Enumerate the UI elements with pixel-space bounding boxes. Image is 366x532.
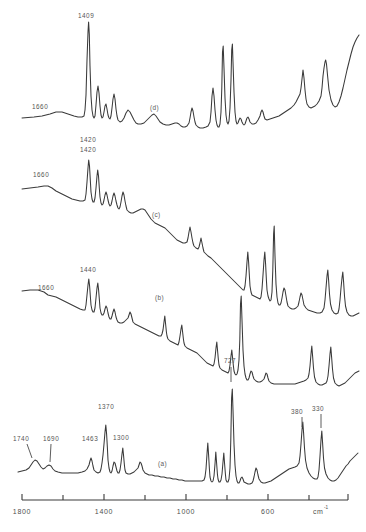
axis-tick-label-1800: 1800	[13, 508, 31, 515]
peak-label-a-380: 380	[291, 408, 303, 415]
peak-label-a-1300: 1300	[113, 434, 129, 441]
x-axis-unit-label: cm -1	[313, 505, 329, 515]
axis-tick-label-1000: 1000	[177, 508, 195, 515]
peak-label-c-1660: 1660	[33, 171, 49, 178]
trace-path-a	[18, 389, 358, 484]
peak-label-d-1660: 1660	[32, 103, 48, 110]
trace-path-b	[22, 279, 359, 386]
trace-path-c	[22, 160, 359, 316]
spectra-figure: 1660 1409 1420 (d) 1660 1420 (c) 1660 14…	[0, 0, 366, 532]
axis-tick-label-1400: 1400	[95, 508, 113, 515]
peak-label-b-1440: 1440	[80, 266, 96, 273]
trace-tag-a: (a)	[158, 460, 167, 468]
trace-tag-c: (c)	[152, 211, 161, 219]
axis-tick-label-600: 600	[261, 508, 275, 515]
trace-tag-d: (d)	[150, 104, 159, 112]
leader-line-1740	[27, 444, 32, 458]
trace-tag-b: (b)	[155, 294, 164, 302]
peak-label-c-1420: 1420	[80, 146, 96, 153]
trace-group-b: 1660 1440 (b)	[22, 266, 359, 386]
peak-label-d-1409: 1409	[78, 12, 94, 19]
trace-group-d: 1660 1409 1420 (d)	[22, 12, 359, 143]
peak-label-a-1690: 1690	[43, 435, 59, 442]
peak-label-b-1660: 1660	[38, 284, 54, 291]
trace-group-a: 1740 1690 1463 1370 1300 727 380 330 (a)	[13, 357, 358, 484]
peak-label-a-1370: 1370	[98, 403, 114, 410]
peak-label-a-330: 330	[312, 405, 324, 412]
leader-line-1690	[50, 444, 51, 462]
peak-label-a-727: 727	[224, 357, 236, 364]
x-axis: 1800 1400 1000 600 cm -1	[13, 494, 348, 515]
peak-label-a-1740: 1740	[13, 435, 29, 442]
trace-group-c: 1660 1420 (c)	[22, 146, 359, 316]
spectra-svg: 1660 1409 1420 (d) 1660 1420 (c) 1660 14…	[0, 0, 366, 532]
peak-label-d-1420: 1420	[80, 136, 96, 143]
trace-path-d	[22, 22, 359, 128]
axis-unit-text: cm	[313, 508, 323, 515]
peak-label-a-1463: 1463	[82, 435, 98, 442]
axis-unit-exponent: -1	[324, 505, 329, 510]
